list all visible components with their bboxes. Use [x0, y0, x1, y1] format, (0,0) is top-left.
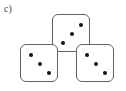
pip	[85, 53, 89, 57]
right-die	[76, 44, 114, 82]
dice-figure: c)	[0, 0, 126, 91]
pip	[61, 41, 65, 45]
pip	[47, 71, 51, 75]
pip	[38, 62, 42, 66]
left-die	[20, 44, 58, 82]
part-label: c)	[4, 3, 12, 15]
pip	[29, 53, 33, 57]
pip	[103, 71, 107, 75]
pip	[94, 62, 98, 66]
pip	[70, 32, 74, 36]
pip	[79, 23, 83, 27]
